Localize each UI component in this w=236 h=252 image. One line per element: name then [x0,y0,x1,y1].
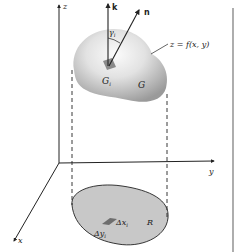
surface-equation: z = f(x, y) [169,40,209,49]
y-axis [59,161,214,163]
surface-eq-leader [151,44,168,54]
x-axis-label: x [18,236,23,245]
y-axis-label: y [208,167,214,176]
x-axis [14,163,59,241]
region-r [72,185,168,245]
surface-label: G [138,80,145,90]
surface-g [73,29,167,102]
k-vector-label: k [112,3,118,12]
surface-integral-figure: z y x Δxi Δyi R k n γi z = f(x, y) Gi G [0,0,236,252]
n-vector-label: n [144,8,150,17]
z-axis-label: z [62,2,68,11]
region-label: R [146,218,153,227]
